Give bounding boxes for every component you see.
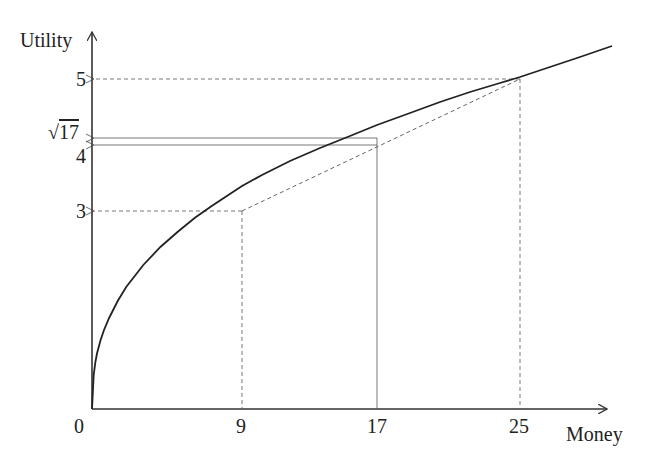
y-tick-sqrt17-value: 17	[59, 121, 79, 143]
y-axis-label: Utility	[20, 30, 72, 50]
origin-label: 0	[74, 416, 84, 436]
x-tick-9: 9	[236, 416, 246, 436]
y-tick-3: 3	[76, 201, 86, 221]
utility-chart	[0, 0, 651, 449]
utility-curve	[92, 46, 612, 409]
y-tick-4: 4	[76, 146, 86, 166]
y-tick-5: 5	[76, 69, 86, 89]
x-tick-17: 17	[367, 416, 387, 436]
y-tick-sqrt17: √17	[48, 122, 79, 142]
x-tick-25: 25	[509, 416, 529, 436]
x-axis-label: Money	[566, 424, 623, 444]
